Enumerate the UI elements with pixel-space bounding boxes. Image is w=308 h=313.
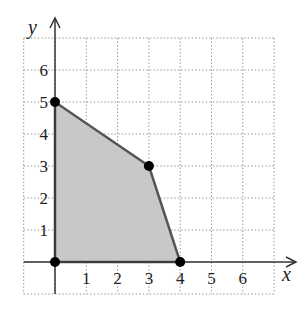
y-axis-label: y — [26, 16, 37, 39]
feasible-region-chart: 123456123456 x y — [0, 0, 308, 313]
x-tick-label: 3 — [145, 269, 154, 288]
x-tick-label: 1 — [82, 269, 91, 288]
vertex-point — [50, 97, 60, 107]
x-tick-label: 6 — [239, 269, 248, 288]
x-tick-label: 5 — [207, 269, 216, 288]
y-tick-label: 6 — [40, 61, 49, 80]
vertex-point — [175, 257, 185, 267]
x-tick-label: 4 — [176, 269, 185, 288]
x-axis-label: x — [281, 263, 291, 285]
x-tick-label: 2 — [113, 269, 122, 288]
vertex-point — [144, 161, 154, 171]
y-tick-label: 5 — [40, 93, 49, 112]
y-tick-label: 2 — [40, 189, 49, 208]
y-tick-label: 3 — [40, 157, 49, 176]
y-tick-label: 4 — [40, 125, 49, 144]
vertex-point — [50, 257, 60, 267]
y-tick-label: 1 — [40, 221, 49, 240]
